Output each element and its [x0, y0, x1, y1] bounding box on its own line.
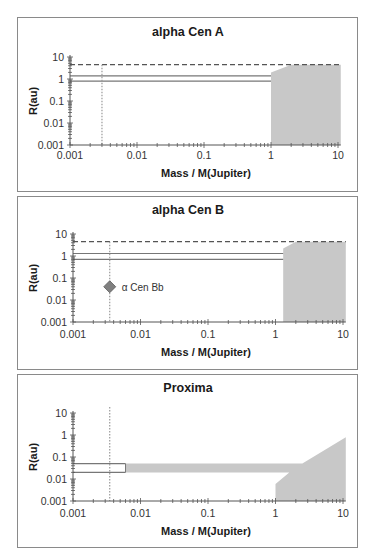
- x-tick-label: 0.01: [130, 507, 151, 519]
- y-tick-label: 1: [61, 429, 67, 441]
- x-axis-label: Mass / M(Jupiter): [161, 167, 251, 179]
- chart-title: Proxima: [163, 381, 213, 395]
- x-tick-label: 0.1: [201, 328, 216, 340]
- chart-alpha-cen-a: alpha Cen A0.0010.010.11100.0010.010.111…: [1, 18, 372, 193]
- x-tick-label: 10: [337, 328, 349, 340]
- x-tick-label: 0.01: [127, 149, 148, 161]
- x-tick-label: 10: [332, 149, 344, 161]
- chart-title: alpha Cen A: [152, 25, 224, 39]
- excluded-region: [271, 65, 341, 145]
- x-tick-label: 0.1: [197, 149, 212, 161]
- planet-marker-diamond: [104, 281, 116, 293]
- planet-label: α Cen Bb: [122, 282, 164, 293]
- y-tick-label: 0.001: [38, 139, 64, 151]
- y-tick-label: 0.1: [52, 272, 67, 284]
- panel-alpha-cen-b: alpha Cen B0.0010.010.11100.0010.010.111…: [17, 196, 358, 370]
- chart-title: alpha Cen B: [152, 203, 224, 217]
- x-axis-label: Mass / M(Jupiter): [161, 346, 251, 358]
- y-tick-label: 0.01: [44, 117, 65, 129]
- x-tick-label: 0.001: [57, 149, 83, 161]
- x-tick-label: 0.1: [201, 507, 216, 519]
- y-tick-label: 0.1: [49, 95, 64, 107]
- x-axis-label: Mass / M(Jupiter): [161, 525, 251, 537]
- chart-proxima: Proxima0.0010.010.11100.0010.010.1110Mas…: [1, 375, 372, 549]
- y-tick-label: 0.01: [47, 294, 68, 306]
- x-tick-label: 1: [273, 507, 279, 519]
- x-tick-label: 0.001: [60, 507, 86, 519]
- y-tick-label: 0.01: [47, 473, 68, 485]
- y-axis-label: R(au): [27, 443, 39, 471]
- y-tick-label: 1: [61, 250, 67, 262]
- panel-proxima: Proxima0.0010.010.11100.0010.010.1110Mas…: [17, 374, 358, 548]
- y-tick-label: 0.001: [41, 495, 67, 507]
- y-tick-label: 10: [55, 228, 67, 240]
- y-tick-label: 0.001: [41, 316, 67, 328]
- panel-alpha-cen-a: alpha Cen A0.0010.010.11100.0010.010.111…: [17, 17, 358, 192]
- x-tick-label: 0.001: [60, 328, 86, 340]
- chart-alpha-cen-b: alpha Cen B0.0010.010.11100.0010.010.111…: [1, 197, 372, 371]
- y-tick-label: 10: [52, 51, 64, 63]
- y-tick-label: 0.1: [52, 451, 67, 463]
- y-axis-label: R(au): [27, 87, 39, 115]
- y-tick-label: 1: [58, 73, 64, 85]
- excluded-region: [126, 437, 346, 501]
- x-tick-label: 1: [273, 328, 279, 340]
- x-tick-label: 0.01: [130, 328, 151, 340]
- x-tick-label: 1: [268, 149, 274, 161]
- x-tick-label: 10: [337, 507, 349, 519]
- y-tick-label: 10: [55, 407, 67, 419]
- excluded-region: [283, 242, 346, 322]
- y-axis-label: R(au): [27, 264, 39, 292]
